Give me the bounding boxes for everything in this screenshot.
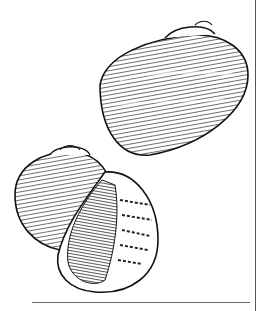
lower-shell bbox=[15, 146, 158, 293]
upper-shell bbox=[100, 21, 248, 155]
snail-shells-illustration bbox=[0, 0, 264, 311]
